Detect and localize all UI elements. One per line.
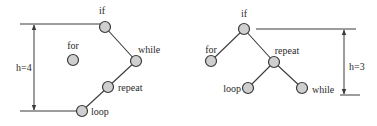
left-node-label-if: if	[99, 5, 106, 16]
left-node-if	[100, 22, 111, 33]
left-node-label-repeat: repeat	[118, 82, 143, 93]
right-node-while	[297, 83, 308, 94]
left-node-repeat	[103, 82, 114, 93]
right-node-repeat	[269, 57, 280, 68]
left-edge-if-while	[105, 27, 136, 61]
left-height-label: h=4	[16, 62, 32, 73]
left-node-label-for: for	[67, 40, 79, 51]
avl-tree-height-diagram: ifforwhilerepeatloop h=4 ifforrepeatloop…	[0, 0, 377, 126]
right-tree-edges	[211, 29, 302, 88]
right-node-if	[239, 24, 250, 35]
right-node-label-if: if	[241, 8, 248, 19]
left-height-measure	[20, 24, 100, 111]
left-node-label-loop: loop	[91, 106, 109, 117]
right-node-loop	[243, 83, 254, 94]
right-node-label-while: while	[312, 84, 335, 95]
right-height-label: h=3	[349, 61, 365, 72]
right-node-label-repeat: repeat	[275, 45, 300, 56]
left-tree-nodes: ifforwhilerepeatloop	[67, 5, 161, 117]
left-node-for	[68, 55, 79, 66]
left-node-loop	[77, 106, 88, 117]
right-tree-nodes: ifforrepeatloopwhile	[205, 8, 335, 95]
left-tree-edges	[82, 27, 136, 111]
left-tree-unbalanced: ifforwhilerepeatloop h=4	[16, 5, 161, 117]
right-node-label-loop: loop	[223, 83, 241, 94]
left-node-while	[131, 56, 142, 67]
right-edge-if-repeat	[244, 29, 274, 62]
right-node-label-for: for	[205, 44, 217, 55]
right-node-for	[206, 56, 217, 67]
left-node-label-while: while	[138, 44, 161, 55]
right-tree-balanced: ifforrepeatloopwhile h=3	[205, 8, 364, 95]
